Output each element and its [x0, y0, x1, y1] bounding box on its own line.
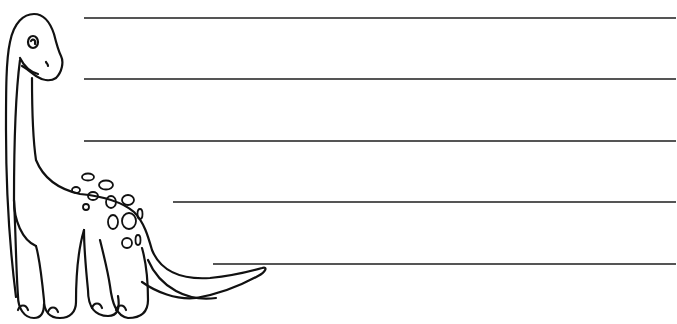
dinosaur-icon [0, 0, 677, 324]
